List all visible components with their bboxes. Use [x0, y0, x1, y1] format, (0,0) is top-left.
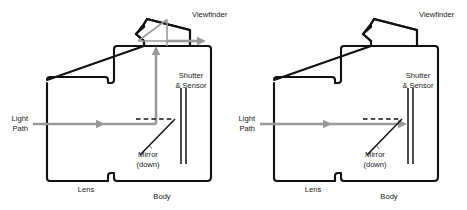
light-path-label-left-line2: Path — [12, 124, 28, 133]
incoming-light-arrowhead-left — [96, 120, 105, 129]
viewfinder-label-left: Viewfinder — [192, 10, 228, 19]
shutter-sensor-label-right-line2: & Sensor — [402, 81, 434, 90]
mirror-label-leader-left — [150, 146, 152, 149]
body-label-right: Body — [380, 192, 398, 201]
incoming-light-arrowhead-right-mid — [323, 120, 332, 129]
pentaprism-outline-right — [363, 19, 417, 46]
shutter-sensor-label-left-line1: Shutter — [179, 71, 204, 80]
mirror-label-right-line2: (down) — [363, 160, 387, 169]
viewfinder-ray-arrowhead-left — [197, 37, 206, 46]
light-path-label-right-line2: Path — [239, 124, 255, 133]
shutter-sensor-label-right-line1: Shutter — [406, 71, 431, 80]
left-panel: Viewfinder Shutter & Sensor Light Path M… — [12, 10, 228, 201]
lens-label-right: Lens — [305, 185, 322, 194]
light-path-label-left-line1: Light — [12, 114, 29, 123]
diagram-canvas: Viewfinder Shutter & Sensor Light Path M… — [0, 0, 467, 210]
lens-label-left: Lens — [78, 185, 95, 194]
mirror-label-leader-right — [377, 146, 379, 149]
light-path-label-right-line1: Light — [239, 114, 256, 123]
mirror-label-left-line2: (down) — [136, 160, 160, 169]
prism-ray-diagonal-left — [138, 20, 167, 42]
mirror-label-left-line1: Mirror — [138, 150, 158, 159]
shutter-sensor-label-left-line2: & Sensor — [175, 81, 207, 90]
right-panel: Viewfinder Shutter & Sensor Light Path M… — [239, 10, 455, 201]
mirror-to-prism-arrowhead-left — [152, 46, 161, 55]
mirror-label-right-line1: Mirror — [365, 150, 385, 159]
slr-light-path-diagram: Viewfinder Shutter & Sensor Light Path M… — [0, 0, 467, 210]
body-label-left: Body — [153, 192, 171, 201]
viewfinder-label-right: Viewfinder — [419, 10, 455, 19]
